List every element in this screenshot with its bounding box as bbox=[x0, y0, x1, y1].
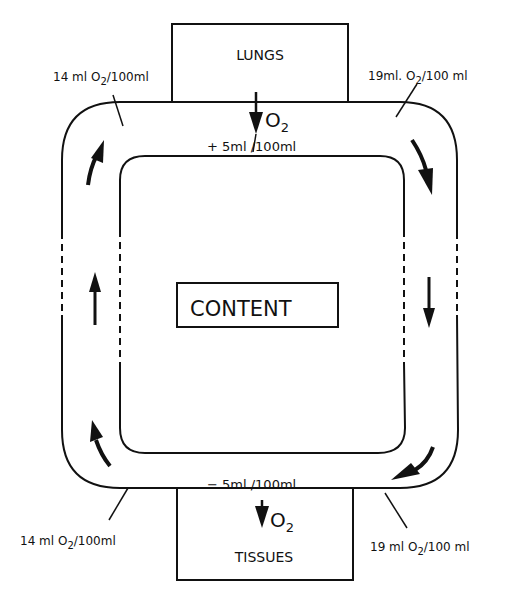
tissues-o2-label: O2 bbox=[270, 508, 294, 535]
annotation-bottom-right: 19 ml O2/100 ml bbox=[370, 493, 470, 557]
content-label: CONTENT bbox=[190, 297, 292, 321]
svg-text:19 ml O2/100 ml: 19 ml O2/100 ml bbox=[370, 540, 470, 557]
outer-circulation-loop bbox=[62, 102, 458, 488]
curved-arrow-icon bbox=[90, 420, 110, 466]
down-arrow-icon bbox=[255, 506, 269, 528]
lungs-label: LUNGS bbox=[236, 47, 284, 63]
svg-text:14 ml O2/100ml: 14 ml O2/100ml bbox=[20, 534, 116, 551]
lungs-o2-label: O2 bbox=[265, 108, 289, 135]
tissues-change-label: − 5ml /100ml bbox=[207, 477, 296, 492]
tissues-box: TISSUES bbox=[177, 488, 353, 580]
curved-arrow-icon bbox=[412, 140, 433, 195]
down-arrow-icon bbox=[249, 112, 263, 134]
curved-arrow-icon bbox=[391, 447, 433, 480]
lungs-change-label: + 5ml /100ml bbox=[207, 139, 296, 154]
content-box: CONTENT bbox=[177, 283, 338, 327]
svg-text:19ml. O2/100 ml: 19ml. O2/100 ml bbox=[368, 69, 468, 86]
curved-arrow-icon bbox=[88, 140, 104, 185]
annotation-top-right: 19ml. O2/100 ml bbox=[368, 69, 468, 117]
annotation-bottom-left: 14 ml O2/100ml bbox=[20, 488, 128, 551]
oxygen-content-diagram: LUNGS TISSUES CONTENT O2 + 5ml /100ml O2 bbox=[0, 0, 520, 604]
tissues-label: TISSUES bbox=[234, 549, 294, 565]
up-arrow-icon bbox=[89, 272, 101, 325]
tissues-o2-release: O2 − 5ml /100ml bbox=[207, 477, 296, 535]
annotation-top-left: 14 ml O2/100ml bbox=[53, 70, 149, 126]
lungs-box: LUNGS bbox=[172, 24, 348, 102]
svg-text:14 ml O2/100ml: 14 ml O2/100ml bbox=[53, 70, 149, 87]
down-arrow-icon bbox=[423, 277, 435, 328]
